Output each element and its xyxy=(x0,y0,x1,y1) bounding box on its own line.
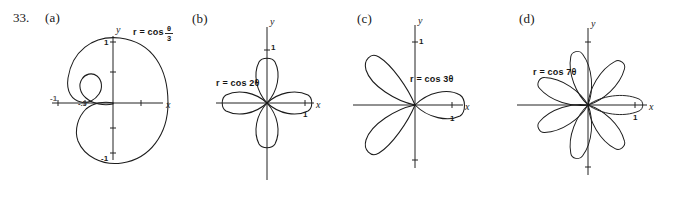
panel-b-x-axis-label: x xyxy=(315,99,321,110)
panel-a-equation-numerator: θ xyxy=(167,24,171,33)
panel-c-ticklabel-y-top: 1 xyxy=(419,37,424,46)
panel-b-label: (b) xyxy=(192,11,208,27)
panel-a-curve-outer xyxy=(68,38,168,105)
panel-d: (d) x y 1 r = cos 7θ xyxy=(495,0,676,198)
panel-a-curve-lower xyxy=(76,102,168,163)
panel-c-x-axis-label: x xyxy=(464,101,470,112)
panel-d-petal-6 xyxy=(566,103,597,161)
panel-c-plot: x y 1 1 r = cos 3θ xyxy=(335,0,495,198)
panel-d-x-axis-label: x xyxy=(648,101,654,112)
panel-a-ticklabel-y-top: 1 xyxy=(104,38,109,47)
panel-a-ticklabel-x-left: -1 xyxy=(50,94,58,103)
panel-c-y-axis-label: y xyxy=(417,15,423,26)
panel-a-equation-denominator: 3 xyxy=(167,34,171,43)
panel-a-y-axis-label: y xyxy=(115,24,121,35)
panel-d-plot: x y 1 r = cos 7θ xyxy=(495,0,676,198)
panel-c-petal-lower-left xyxy=(365,105,415,155)
panel-c-ticklabel-x-right: 1 xyxy=(450,114,455,123)
panel-d-petal-3 xyxy=(566,49,597,107)
panel-a-equation: r = cos xyxy=(133,27,164,37)
panel-a-x-axis-label: x xyxy=(165,99,171,110)
panel-d-equation: r = cos 7θ xyxy=(533,67,577,77)
panel-c-petal-upper-left xyxy=(365,55,415,105)
panel-b-ticklabel-y-top: 1 xyxy=(271,43,276,52)
panel-d-ticklabel-x-right: 1 xyxy=(633,113,638,122)
panel-a-ticklabel-y-bottom: -1 xyxy=(101,154,109,163)
panel-d-y-axis-label: y xyxy=(590,18,596,29)
panel-b-ticklabel-x-right: 1 xyxy=(303,110,308,119)
panel-b-equation: r = cos 2θ xyxy=(216,78,260,88)
panel-a: (a) x y 1 -1 -1 -.5 r = cos θ xyxy=(0,0,180,198)
panel-a-plot: x y 1 -1 -1 -.5 r = cos θ 3 xyxy=(0,0,180,198)
panel-c-label: (c) xyxy=(357,11,372,27)
panel-b: (b) x y 1 1 r = cos 2θ xyxy=(180,0,335,198)
polar-curves-figure: 33. (a) x y 1 -1 -1 -.5 r = xyxy=(0,0,676,198)
panel-b-plot: x y 1 1 r = cos 2θ xyxy=(180,0,335,198)
panel-d-label: (d) xyxy=(519,11,535,27)
panel-a-ticklabel-x-near-origin: -.5 xyxy=(78,99,87,108)
panel-b-y-axis-label: y xyxy=(269,16,275,27)
panel-c: (c) x y 1 1 r = cos 3θ xyxy=(335,0,495,198)
panel-c-equation: r = cos 3θ xyxy=(410,74,454,84)
panel-a-label: (a) xyxy=(45,10,60,26)
